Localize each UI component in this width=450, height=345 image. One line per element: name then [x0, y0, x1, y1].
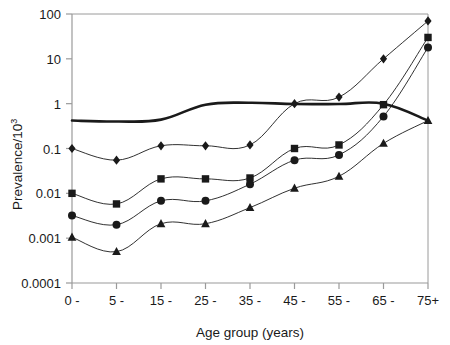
data-point-square-5: [291, 145, 298, 152]
data-point-square-3: [202, 175, 209, 182]
y-tick-label-2: 1: [54, 97, 61, 112]
prevalence-by-age-line-chart: 100 10 1 0.1 0.01 0.001 0.0001 Prevalenc…: [0, 0, 450, 345]
y-tick-label-0: 100: [39, 7, 61, 22]
x-tick-label-3: 25 -: [194, 293, 216, 308]
data-point-square-0: [68, 190, 75, 197]
x-tick-label-4: 35 -: [239, 293, 261, 308]
x-tick-label-6: 55 -: [328, 293, 350, 308]
data-point-circle-7: [380, 112, 388, 120]
y-tick-label-4: 0.01: [36, 186, 61, 201]
data-point-circle-3: [202, 197, 210, 205]
data-point-circle-1: [113, 221, 121, 229]
data-point-circle-6: [335, 151, 343, 159]
data-point-circle-0: [68, 212, 76, 220]
data-point-square-2: [157, 175, 164, 182]
data-point-circle-8: [424, 43, 432, 51]
x-tick-label-0: 0 -: [64, 293, 79, 308]
x-tick-label-2: 15 -: [150, 293, 172, 308]
y-tick-label-3: 0.1: [43, 142, 61, 157]
chart-container: 100 10 1 0.1 0.01 0.001 0.0001 Prevalenc…: [0, 0, 450, 345]
y-tick-label-5: 0.001: [28, 231, 61, 246]
y-tick-label-6: 0.0001: [21, 276, 61, 291]
x-tick-label-8: 75+: [417, 293, 439, 308]
data-point-square-8: [424, 34, 431, 41]
y-axis-title-exponent: 3: [9, 119, 19, 124]
data-point-square-6: [335, 141, 342, 148]
data-point-circle-4: [246, 180, 254, 188]
data-point-circle-2: [157, 197, 165, 205]
x-tick-label-1: 5 -: [109, 293, 124, 308]
x-tick-label-5: 45 -: [283, 293, 305, 308]
x-axis-title: Age group (years): [196, 325, 304, 340]
x-axis-ticks: [72, 283, 428, 289]
data-point-square-1: [113, 200, 120, 207]
x-axis-tick-labels: 0 -5 -15 -25 -35 -45 -55 -65 -75+: [64, 293, 439, 308]
y-axis-tick-labels: 100 10 1 0.1 0.01 0.001 0.0001: [21, 7, 61, 291]
data-point-circle-5: [291, 156, 299, 164]
y-axis-title-text: Prevalence/10: [10, 124, 25, 210]
x-tick-label-7: 65 -: [372, 293, 394, 308]
y-tick-label-1: 10: [47, 52, 61, 67]
y-axis-title: Prevalence/103: [9, 119, 25, 210]
